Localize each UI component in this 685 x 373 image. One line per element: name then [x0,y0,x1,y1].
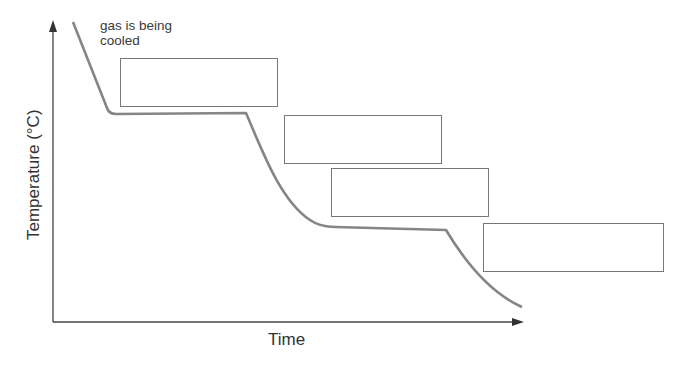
y-axis-label: Temperature (°C) [24,109,44,240]
annotation-line-2: cooled [100,33,172,48]
x-axis-arrow-icon [512,318,524,326]
annotation-line-1: gas is being [100,18,172,33]
x-axis-label: Time [268,330,305,350]
annotation-gas-cooled: gas is being cooled [100,18,172,48]
label-box-4[interactable] [483,223,664,272]
label-box-3[interactable] [331,168,489,217]
label-box-1[interactable] [120,58,278,107]
y-axis-arrow-icon [49,20,57,32]
label-box-2[interactable] [284,115,442,164]
